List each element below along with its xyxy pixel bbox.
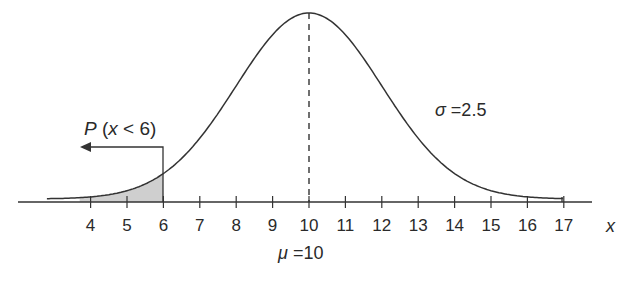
normal-distribution-chart: P (x < 6) σ =2.5 μ =10 x 456789101112131… (0, 0, 631, 281)
x-tick-label: 11 (337, 216, 355, 236)
prob-symbol: P (84, 118, 97, 139)
x-tick-label: 17 (554, 216, 573, 236)
x-tick-label: 4 (86, 216, 95, 236)
chart-canvas (0, 0, 631, 281)
mu-label: μ =10 (278, 243, 323, 264)
prob-open: ( (97, 118, 109, 139)
x-tick-label: 10 (300, 216, 319, 236)
sigma-value: =2.5 (446, 100, 487, 120)
x-tick-label: 9 (268, 216, 277, 236)
x-tick-label: 6 (159, 216, 168, 236)
x-tick-label: 14 (445, 216, 464, 236)
x-tick-label: 16 (518, 216, 537, 236)
sigma-symbol: σ (435, 100, 446, 120)
probability-label: P (x < 6) (84, 118, 156, 140)
x-tick-label: 7 (195, 216, 204, 236)
x-tick-label: 5 (122, 216, 131, 236)
x-tick-label: 12 (372, 216, 391, 236)
mu-symbol: μ (278, 243, 288, 263)
x-tick-label: 13 (409, 216, 428, 236)
prob-variable: x (108, 118, 118, 139)
x-tick-label: 15 (482, 216, 501, 236)
arrow-left-icon (80, 142, 91, 152)
x-axis-label: x (606, 216, 615, 237)
mu-value: =10 (288, 243, 324, 263)
x-tick-label: 8 (231, 216, 240, 236)
shaded-probability-area (80, 174, 164, 202)
sigma-label: σ =2.5 (435, 100, 486, 121)
prob-condition: < 6) (118, 118, 157, 139)
